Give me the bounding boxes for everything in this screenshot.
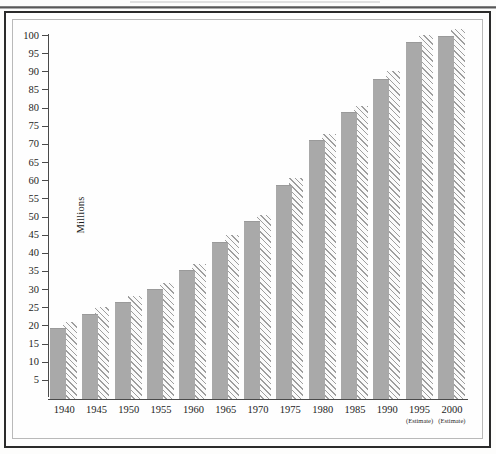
bar-pair: [115, 36, 143, 399]
chart-page: Millions 5101520253035404550556065707580…: [0, 0, 496, 454]
x-tick-cell: 1990: [371, 404, 403, 425]
x-tick-cell: 1975: [274, 404, 306, 425]
y-tick-label: 85: [29, 85, 40, 96]
bar-group: [274, 36, 306, 399]
bar-pair: [50, 36, 78, 399]
bar-pair: [406, 36, 434, 399]
bar-group: [242, 36, 274, 399]
bar-group: [177, 36, 209, 399]
y-tick-label: 50: [29, 212, 40, 223]
bar-solid: [82, 314, 98, 399]
bar-pair: [212, 36, 240, 399]
y-tick-label: 45: [29, 230, 40, 241]
x-tick-label: 1960: [177, 404, 209, 416]
x-tick-cell: 1980: [307, 404, 339, 425]
bar-pair: [82, 36, 110, 399]
bar-pair: [309, 36, 337, 399]
x-tick-label: 1995: [403, 404, 435, 416]
bar-solid: [309, 140, 325, 399]
bar-solid: [341, 112, 357, 399]
x-tick-note-estimate: (Estimate): [436, 416, 468, 425]
x-tick-label: 1950: [113, 404, 145, 416]
bar-solid: [179, 270, 195, 399]
bar-group: [48, 36, 80, 399]
bar-group: [145, 36, 177, 399]
bar-pair: [276, 36, 304, 399]
bar-pair: [147, 36, 175, 399]
x-tick-label: 1955: [145, 404, 177, 416]
bar-group: [403, 36, 435, 399]
x-tick-cell: 1955: [145, 404, 177, 425]
x-tick-cell: 1945: [80, 404, 112, 425]
y-tick-label: 95: [29, 49, 40, 60]
bar-solid: [406, 42, 422, 399]
bar-group: [371, 36, 403, 399]
x-tick-label: 1945: [80, 404, 112, 416]
bar-group: [113, 36, 145, 399]
y-tick-label: 35: [29, 267, 40, 278]
bar-pair: [179, 36, 207, 399]
x-tick-label: 1970: [242, 404, 274, 416]
bar-solid: [276, 185, 292, 399]
bar-series-container: [48, 36, 468, 399]
x-tick-cell: 1985: [339, 404, 371, 425]
y-tick-label: 25: [29, 303, 40, 314]
y-tick-label: 40: [29, 249, 40, 260]
x-tick-label: 1990: [371, 404, 403, 416]
y-tick-label: 10: [29, 357, 40, 368]
bar-pair: [341, 36, 369, 399]
y-tick-label: 60: [29, 176, 40, 187]
y-tick-label: 80: [29, 103, 40, 114]
y-tick-label: 65: [29, 158, 40, 169]
x-tick-cell: 1995(Estimate): [403, 404, 435, 425]
bar-solid: [50, 328, 66, 399]
y-tick-label: 70: [29, 140, 40, 151]
x-axis-line: [48, 399, 468, 400]
x-tick-cell: 1970: [242, 404, 274, 425]
y-tick-label: 20: [29, 321, 40, 332]
x-tick-cell: 1965: [210, 404, 242, 425]
x-tick-cell: 2000(Estimate): [436, 404, 468, 425]
bar-solid: [438, 36, 454, 399]
page-top-rule: [0, 6, 496, 9]
y-tick-label: 5: [34, 376, 39, 387]
page-top-rule-faint: [130, 1, 380, 3]
bar-solid: [244, 221, 260, 399]
bar-solid: [212, 242, 228, 399]
y-tick-label: 55: [29, 194, 40, 205]
x-tick-label: 2000: [436, 404, 468, 416]
y-tick-label: 100: [23, 31, 39, 42]
bar-pair: [244, 36, 272, 399]
bar-group: [210, 36, 242, 399]
plot-area: Millions 5101520253035404550556065707580…: [48, 30, 468, 400]
bar-group: [80, 36, 112, 399]
x-tick-label: 1985: [339, 404, 371, 416]
x-tick-note-estimate: (Estimate): [403, 416, 435, 425]
bar-solid: [373, 79, 389, 399]
x-axis-ticks: 1940194519501955196019651970197519801985…: [48, 404, 468, 425]
bar-pair: [438, 36, 466, 399]
y-tick-label: 30: [29, 285, 40, 296]
x-tick-label: 1965: [210, 404, 242, 416]
bar-pair: [373, 36, 401, 399]
y-tick-label: 15: [29, 339, 40, 350]
y-tick-label: 75: [29, 122, 40, 133]
bar-group: [307, 36, 339, 399]
bar-group: [339, 36, 371, 399]
x-tick-cell: 1940: [48, 404, 80, 425]
bar-solid: [147, 289, 163, 399]
y-tick-label: 90: [29, 67, 40, 78]
x-tick-cell: 1950: [113, 404, 145, 425]
x-tick-label: 1940: [48, 404, 80, 416]
x-tick-label: 1975: [274, 404, 306, 416]
x-tick-label: 1980: [307, 404, 339, 416]
x-tick-cell: 1960: [177, 404, 209, 425]
bar-solid: [115, 302, 131, 399]
bar-group: [436, 36, 468, 399]
